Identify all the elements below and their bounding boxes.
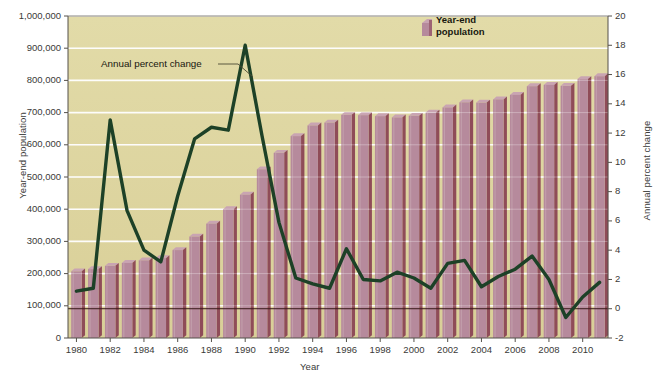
y-axis-right-tick-label: 0 <box>615 302 655 313</box>
y-axis-left-tick-label: 400,000 <box>0 203 61 214</box>
y-axis-right-tick-label: 20 <box>615 10 655 21</box>
y-axis-left-tick-label: 800,000 <box>0 74 61 85</box>
y-axis-right-tick-label: 12 <box>615 127 655 138</box>
y-axis-right-tick-label: 2 <box>615 273 655 284</box>
bar <box>476 100 490 338</box>
bar <box>459 99 473 338</box>
y-axis-left-tick-label: 1,000,000 <box>0 10 61 21</box>
y-axis-right-tick-label: 4 <box>615 244 655 255</box>
bar <box>375 113 389 338</box>
y-axis-right-tick-label: 8 <box>615 185 655 196</box>
bar <box>493 97 507 338</box>
bar <box>71 268 85 338</box>
legend-entry-year-end-population: Year-end population <box>436 14 485 37</box>
y-axis-left-tick-label: 900,000 <box>0 42 61 53</box>
annotation-annual-percent-change: Annual percent change <box>101 58 202 69</box>
bar <box>291 133 305 338</box>
y-axis-left-tick-label: 500,000 <box>0 171 61 182</box>
bar <box>324 120 338 338</box>
y-axis-left-tick-label: 700,000 <box>0 106 61 117</box>
bar <box>240 192 254 338</box>
bar <box>510 92 524 338</box>
x-axis-title: Year <box>300 361 320 372</box>
chart-figure: Year-end population Annual percent chang… <box>0 0 666 378</box>
bar <box>358 112 372 338</box>
y-axis-left-tick-label: 300,000 <box>0 235 61 246</box>
y-axis-left-tick-label: 100,000 <box>0 299 61 310</box>
bar <box>426 110 440 338</box>
y-axis-right-tick-label: 6 <box>615 214 655 225</box>
y-axis-left-tick-label: 600,000 <box>0 138 61 149</box>
y-axis-right-tick-label: 18 <box>615 39 655 50</box>
bar <box>156 255 170 338</box>
y-axis-right-tick-label: 10 <box>615 156 655 167</box>
bar <box>172 247 186 338</box>
y-axis-right-tick-label: 14 <box>615 97 655 108</box>
y-axis-left-tick-label: 0 <box>0 332 61 343</box>
y-axis-right-tick-label: -2 <box>615 332 655 343</box>
bar <box>189 234 203 338</box>
bar <box>442 105 456 338</box>
bar <box>341 112 355 338</box>
bar <box>105 263 119 338</box>
bar <box>527 83 541 338</box>
y-axis-left-tick-label: 200,000 <box>0 267 61 278</box>
bar <box>139 258 153 338</box>
bar <box>223 206 237 338</box>
bar <box>392 115 406 338</box>
bar <box>409 113 423 338</box>
legend-label-line2: population <box>436 26 485 38</box>
bar <box>561 83 575 338</box>
bar <box>122 260 136 338</box>
dual-axis-population-chart <box>0 0 666 378</box>
bar <box>206 221 220 338</box>
bar <box>257 166 271 338</box>
legend-label-line1: Year-end <box>436 14 485 26</box>
x-axis-tick-label: 2010 <box>563 344 603 355</box>
y-axis-right-tick-label: 16 <box>615 68 655 79</box>
bar <box>544 82 558 338</box>
